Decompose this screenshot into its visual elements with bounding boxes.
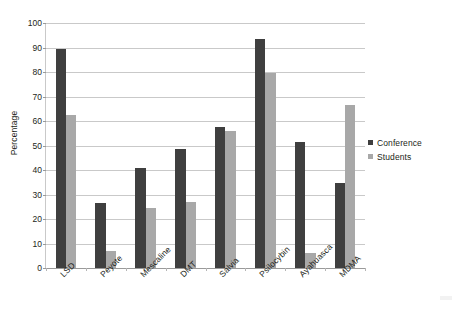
y-tick-label: 80 (14, 67, 42, 77)
bars-layer (46, 23, 365, 268)
y-tick-label: 70 (14, 92, 42, 102)
legend-swatch-icon (368, 154, 373, 159)
y-tick-label: 30 (14, 190, 42, 200)
chart-legend: ConferenceStudents (368, 136, 462, 164)
bar (175, 149, 185, 268)
bar-group (255, 23, 276, 268)
bar-group (215, 23, 236, 268)
bar-group (295, 23, 316, 268)
bar-group (56, 23, 77, 268)
y-tick-label: 100 (14, 18, 42, 28)
bar-group (175, 23, 196, 268)
bar (135, 168, 145, 268)
bar (295, 142, 305, 268)
bar (56, 49, 66, 268)
bar (225, 131, 235, 268)
bar (335, 183, 345, 268)
legend-label: Conference (377, 138, 422, 148)
bar (95, 203, 105, 268)
bar-group (95, 23, 116, 268)
y-axis-tick-labels: 0102030405060708090100 (14, 23, 42, 268)
x-tick-mark (245, 268, 246, 271)
bar (255, 39, 265, 268)
y-tick-label: 10 (14, 239, 42, 249)
legend-entry[interactable]: Conference (368, 136, 462, 149)
bar (345, 105, 355, 268)
x-tick-mark (365, 268, 366, 271)
bar-group (335, 23, 356, 268)
legend-entry[interactable]: Students (368, 150, 462, 163)
bar (66, 115, 76, 268)
x-tick-mark (46, 268, 47, 271)
bar (215, 127, 225, 268)
x-tick-mark (86, 268, 87, 271)
x-tick-mark (206, 268, 207, 271)
plot-area (46, 23, 365, 268)
y-tick-label: 40 (14, 165, 42, 175)
x-tick-mark (126, 268, 127, 271)
y-tick-label: 90 (14, 43, 42, 53)
x-tick-mark (325, 268, 326, 271)
x-axis-tick-labels: LSDPeyoteMescalineDMTSalviaPsilocybinAya… (46, 270, 365, 311)
bar-group (135, 23, 156, 268)
x-tick-mark (166, 268, 167, 271)
corner-artifact (440, 296, 452, 300)
y-tick-label: 20 (14, 214, 42, 224)
bar (265, 73, 275, 268)
legend-label: Students (377, 152, 411, 162)
y-tick-label: 0 (14, 263, 42, 273)
y-tick-label: 60 (14, 116, 42, 126)
y-tick-label: 50 (14, 141, 42, 151)
x-tick-mark (285, 268, 286, 271)
bar-chart: Percentage 0102030405060708090100 LSDPey… (0, 0, 464, 311)
legend-swatch-icon (368, 140, 373, 145)
